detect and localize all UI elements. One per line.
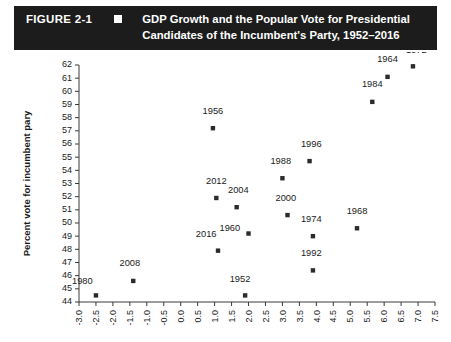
y-tick-group: 44454647484950515253545556575859606162 — [62, 59, 79, 306]
data-point-marker[interactable] — [211, 126, 215, 130]
data-point-label: 1988 — [270, 156, 291, 166]
x-tick-label: 1.5 — [227, 310, 237, 323]
data-point-marker[interactable] — [355, 226, 359, 230]
x-tick-label: 3.5 — [295, 310, 305, 323]
x-tick-label: 0.5 — [193, 310, 203, 323]
x-tick-label: 4.0 — [312, 310, 322, 323]
y-tick-label: 49 — [62, 231, 72, 241]
scatter-chart: 44454647484950515253545556575859606162 -… — [0, 52, 451, 342]
y-tick-label: 55 — [62, 152, 72, 162]
x-tick-label: -0.5 — [159, 310, 169, 326]
y-tick-label: 46 — [62, 270, 72, 280]
filled-square-icon — [114, 15, 122, 23]
data-point-label: 1984 — [362, 79, 383, 89]
figure-title: GDP Growth and the Popular Vote for Pres… — [142, 11, 427, 43]
x-tick-label: 4.5 — [328, 310, 338, 323]
x-tick-label: 5.5 — [362, 310, 372, 323]
data-point-marker[interactable] — [246, 231, 250, 235]
data-point-label: 1992 — [301, 248, 322, 258]
x-tick-label: 2.0 — [244, 310, 254, 323]
x-tick-label: 3.0 — [278, 310, 288, 323]
y-tick-label: 45 — [62, 283, 72, 293]
y-tick-label: 51 — [62, 204, 72, 214]
data-point-group: 1980200819522016195620122004196020001988… — [72, 52, 427, 298]
data-point-label: 2004 — [228, 185, 249, 195]
y-tick-label: 54 — [62, 165, 72, 175]
x-axis: -3.0-2.5-2.0-1.5-1.0-0.50.00.51.01.52.02… — [74, 302, 440, 326]
data-point-marker[interactable] — [411, 64, 415, 68]
y-tick-label: 62 — [62, 59, 72, 69]
x-tick-label: 6.0 — [379, 310, 389, 323]
data-point-marker[interactable] — [285, 213, 289, 217]
x-tick-label: 5.0 — [345, 310, 355, 323]
data-point-marker[interactable] — [94, 293, 98, 297]
chart-canvas: 44454647484950515253545556575859606162 -… — [0, 52, 451, 342]
y-tick-label: 53 — [62, 178, 72, 188]
data-point-label: 1952 — [230, 274, 251, 284]
data-point-marker[interactable] — [216, 248, 220, 252]
data-point-label: 1974 — [301, 214, 322, 224]
data-point-marker[interactable] — [311, 234, 315, 238]
x-tick-label: 1.0 — [210, 310, 220, 323]
data-point-marker[interactable] — [243, 293, 247, 297]
x-tick-label: 0.0 — [176, 310, 186, 323]
data-point-label: 2016 — [196, 229, 217, 239]
y-tick-label: 52 — [62, 191, 72, 201]
x-tick-label: -2.0 — [108, 310, 118, 326]
x-tick-label: -3.0 — [74, 310, 84, 326]
figure-title-line-2: Candidates of the Incumbent's Party, 195… — [142, 27, 427, 43]
data-point-label: 2000 — [275, 193, 296, 203]
data-point-label: 1980 — [72, 276, 93, 286]
y-tick-label: 44 — [62, 296, 72, 306]
x-tick-label: 7.0 — [413, 310, 423, 323]
data-point-marker[interactable] — [131, 279, 135, 283]
x-tick-group: -3.0-2.5-2.0-1.5-1.0-0.50.00.51.01.52.02… — [74, 302, 440, 326]
data-point-label: 1996 — [301, 139, 322, 149]
data-point-marker[interactable] — [311, 268, 315, 272]
x-tick-label: 7.5 — [430, 310, 440, 323]
data-point-marker[interactable] — [214, 196, 218, 200]
y-tick-label: 47 — [62, 257, 72, 267]
figure-title-line-1: GDP Growth and the Popular Vote for Pres… — [142, 11, 427, 27]
data-point-label: 1972 — [406, 52, 427, 55]
data-point-label: 2008 — [120, 258, 141, 268]
data-point-label: 1956 — [203, 106, 224, 116]
data-point-marker[interactable] — [385, 75, 389, 79]
y-axis-label: Percent vote for incumbent pary — [21, 110, 32, 256]
data-point-marker[interactable] — [280, 176, 284, 180]
y-tick-label: 60 — [62, 86, 72, 96]
data-point-label: 2012 — [206, 176, 227, 186]
y-tick-label: 50 — [62, 217, 72, 227]
y-tick-label: 61 — [62, 73, 72, 83]
figure-header-bar: FIGURE 2-1 GDP Growth and the Popular Vo… — [14, 6, 437, 50]
y-tick-label: 56 — [62, 138, 72, 148]
data-point-label: 1960 — [220, 223, 241, 233]
data-point-label: 1968 — [347, 206, 368, 216]
x-tick-label: -1.0 — [142, 310, 152, 326]
y-tick-label: 48 — [62, 244, 72, 254]
x-tick-label: 6.5 — [396, 310, 406, 323]
y-tick-label: 57 — [62, 125, 72, 135]
y-axis: 44454647484950515253545556575859606162 — [62, 59, 79, 306]
x-tick-label: -2.5 — [91, 310, 101, 326]
data-point-marker[interactable] — [307, 159, 311, 163]
y-tick-label: 59 — [62, 99, 72, 109]
y-tick-label: 58 — [62, 112, 72, 122]
x-tick-label: -1.5 — [125, 310, 135, 326]
x-tick-label: 2.5 — [261, 310, 271, 323]
figure-number: FIGURE 2-1 — [26, 11, 92, 27]
data-point-label: 1964 — [377, 54, 398, 64]
data-point-marker[interactable] — [234, 205, 238, 209]
data-point-marker[interactable] — [370, 100, 374, 104]
